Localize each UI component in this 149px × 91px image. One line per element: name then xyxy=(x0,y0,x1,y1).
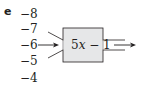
function-rule: 5x − 1 xyxy=(71,38,111,52)
funnel-bottom-line xyxy=(48,50,63,58)
rule-constant: − 1 xyxy=(85,38,110,52)
input-arrow-icon xyxy=(38,43,59,48)
output-arrow-icon xyxy=(114,43,136,48)
rule-coefficient: 5 xyxy=(71,38,79,52)
funnel-top-line xyxy=(48,32,63,40)
